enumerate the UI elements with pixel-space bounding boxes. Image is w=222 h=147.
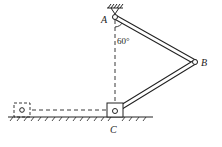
mechanism-diagram: A B C 60° bbox=[0, 0, 222, 147]
bar-bc bbox=[115, 62, 195, 111]
top-support bbox=[107, 4, 123, 14]
label-b: B bbox=[201, 57, 207, 68]
ground-hatch bbox=[10, 117, 146, 121]
slider-dashed-pin bbox=[20, 108, 25, 113]
angle-label: 60° bbox=[117, 36, 130, 46]
joint-c bbox=[113, 109, 118, 114]
label-a: A bbox=[100, 14, 108, 25]
joint-b bbox=[193, 60, 198, 65]
joint-a bbox=[113, 15, 118, 20]
label-c: C bbox=[110, 124, 117, 135]
